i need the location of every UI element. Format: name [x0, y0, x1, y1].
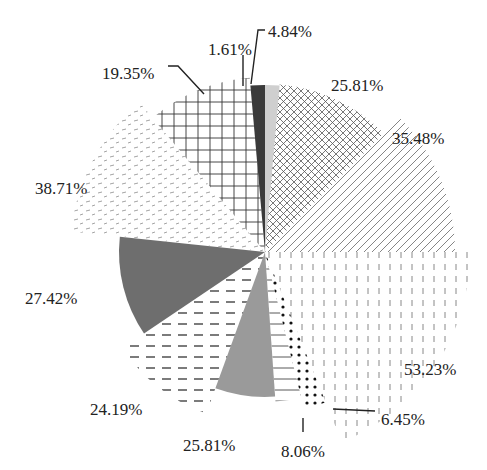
slice-label-27-42: 27.42%: [25, 289, 77, 308]
slice-label-35-48: 35.48%: [392, 129, 444, 148]
slice-label-38-71: 38.71%: [35, 179, 87, 198]
slice-label-1-61: 1.61%: [208, 40, 252, 59]
slice-label-4-84: 4.84%: [268, 22, 312, 41]
leader-line: [168, 66, 204, 94]
slice-label-53-23: 53.23%: [404, 360, 456, 379]
slice-label-19-35: 19.35%: [102, 64, 154, 83]
slice-label-6-45: 6.45%: [381, 410, 425, 429]
slice-label-24-19: 24.19%: [90, 400, 142, 419]
slice-label-25-81-top: 25.81%: [331, 76, 383, 95]
leader-line: [251, 30, 265, 84]
polar-pie-chart: 4.84% 25.81% 35.48% 53.23% 6.45% 8.06% 2…: [0, 0, 487, 470]
slice-label-8-06: 8.06%: [281, 442, 325, 461]
slice-label-25-81-bottom: 25.81%: [183, 436, 235, 455]
